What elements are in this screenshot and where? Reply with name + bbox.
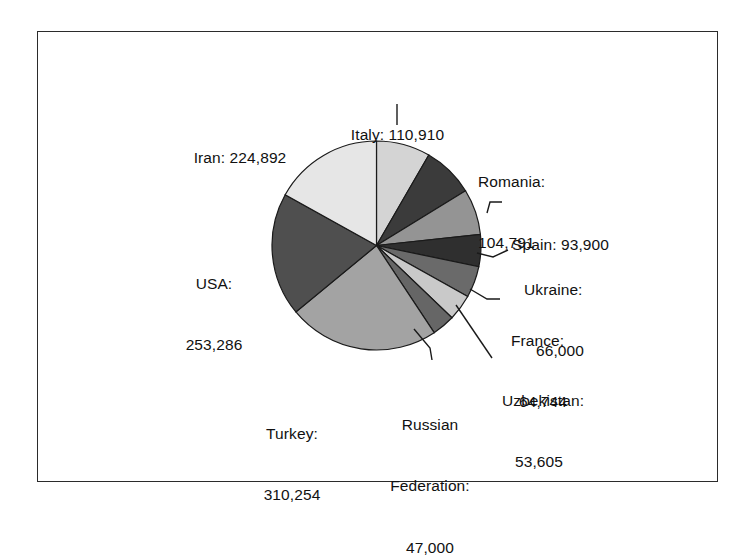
slice-label-uzbekistan-line1: Uzbekistan: (502, 391, 667, 411)
slice-label-italy: Italy: 110,910 (315, 84, 480, 186)
slice-label-russia-line1: Russian (366, 415, 494, 435)
slice-label-russia-line2: Federation: (366, 476, 494, 496)
slice-label-russia-line3: 47,000 (366, 538, 494, 558)
slice-label-usa-line1: USA: (150, 274, 278, 294)
slice-label-france-line1: France: (511, 331, 651, 351)
slice-label-romania-line1: Romania: (478, 172, 628, 192)
slice-label-uzbekistan: Uzbekistan: 53,605 (502, 350, 667, 514)
slice-label-russian-federation: Russian Federation: 47,000 (366, 374, 494, 559)
slice-label-turkey-line2: 310,254 (228, 485, 356, 505)
slice-label-uzbekistan-line2: 53,605 (515, 452, 667, 472)
slice-label-usa-line2: 253,286 (150, 335, 278, 355)
slice-label-italy-line1: Italy: 110,910 (315, 125, 480, 145)
slice-label-turkey: Turkey: 310,254 (228, 383, 356, 547)
slice-label-iran: Iran: 224,892 (155, 107, 325, 209)
slice-label-usa: USA: 253,286 (150, 233, 278, 397)
slice-label-iran-line1: Iran: 224,892 (155, 148, 325, 168)
slice-label-turkey-line1: Turkey: (228, 424, 356, 444)
leader-line-uzbekistan (456, 305, 492, 358)
